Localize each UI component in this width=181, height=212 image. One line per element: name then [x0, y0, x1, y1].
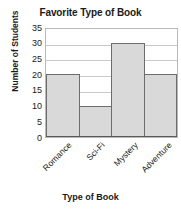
- y-tick-label: 0: [24, 134, 42, 143]
- y-tick-label: 35: [24, 24, 42, 33]
- x-axis-baseline: [46, 136, 177, 137]
- x-tick-label: Romance: [41, 140, 74, 173]
- y-tick-label: 10: [24, 102, 42, 111]
- y-tick-label: 15: [24, 86, 42, 95]
- bar-adventure[interactable]: [144, 74, 178, 137]
- bar-sci-fi[interactable]: [79, 106, 113, 137]
- y-tick-label: 5: [24, 118, 42, 127]
- y-axis-tick-labels: 05101520253035: [24, 28, 42, 138]
- x-axis-title: Type of Book: [0, 192, 181, 203]
- bar-romance[interactable]: [46, 74, 80, 137]
- bars-layer: [46, 29, 177, 137]
- bar-chart-figure: Favorite Type of Book Number of Students…: [0, 0, 181, 212]
- x-tick-label: Mystery: [112, 140, 140, 168]
- y-tick-label: 20: [24, 71, 42, 80]
- x-tick-label: Adventure: [139, 140, 173, 174]
- bar-mystery[interactable]: [111, 43, 145, 137]
- y-axis-title: Number of Students: [10, 0, 20, 111]
- y-tick-label: 25: [24, 55, 42, 64]
- x-tick-label: Sci-Fi: [85, 140, 107, 162]
- chart-title: Favorite Type of Book: [0, 7, 181, 19]
- plot-area: [45, 28, 178, 138]
- y-tick-label: 30: [24, 39, 42, 48]
- x-axis-tick-labels: RomanceSci-FiMysteryAdventure: [45, 138, 178, 186]
